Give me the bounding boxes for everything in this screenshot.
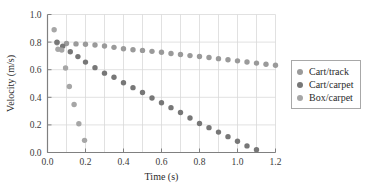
data-point (111, 75, 116, 80)
y-axis-tick-label: 0.8 (30, 38, 42, 48)
data-point (83, 59, 88, 64)
y-axis-tick-label: 0.0 (30, 148, 42, 158)
data-point (73, 41, 78, 46)
data-point (159, 100, 164, 105)
x-axis-tick-label: 0.4 (118, 157, 130, 167)
legend-item-box-carpet: Box/carpet (297, 91, 353, 104)
chart-legend: Cart/track Cart/carpet Box/carpet (291, 60, 361, 109)
data-point (168, 51, 173, 56)
velocity-vs-time-chart: 0.00.20.40.60.81.01.20.00.20.40.60.81.0T… (0, 0, 390, 189)
data-point (197, 121, 202, 126)
data-series-cart-carpet (54, 39, 259, 152)
data-point (244, 143, 249, 148)
data-point (216, 56, 221, 61)
data-point (76, 121, 81, 126)
data-point (168, 105, 173, 110)
data-point (102, 70, 107, 75)
legend-marker-icon (297, 82, 303, 88)
y-axis-tick-label: 0.4 (30, 93, 42, 103)
legend-marker-icon (297, 69, 303, 75)
data-point (68, 49, 73, 54)
data-point (92, 42, 97, 47)
data-point (149, 49, 154, 54)
x-axis-tick-label: 1.2 (270, 157, 282, 167)
y-axis-tick-label: 0.6 (30, 65, 42, 75)
data-point (121, 46, 126, 51)
x-axis-title: Time (s) (145, 171, 179, 183)
x-axis-tick-label: 0.8 (194, 157, 206, 167)
data-point (59, 47, 64, 52)
data-point (235, 58, 240, 63)
data-point (254, 147, 259, 152)
x-axis-tick-label: 0.6 (156, 157, 168, 167)
data-series-cart-track (54, 40, 278, 68)
data-point (111, 45, 116, 50)
data-point (140, 90, 145, 95)
legend-item-cart-carpet: Cart/carpet (297, 78, 353, 91)
data-point (149, 95, 154, 100)
data-point (67, 84, 72, 89)
data-point (187, 53, 192, 58)
data-point (235, 138, 240, 143)
legend-label: Box/carpet (309, 91, 353, 104)
data-point (178, 110, 183, 115)
legend-item-cart-track: Cart/track (297, 65, 353, 78)
data-point (197, 54, 202, 59)
legend-label: Cart/track (309, 65, 349, 78)
data-point (75, 54, 80, 59)
data-point (254, 60, 259, 65)
data-point (71, 102, 76, 107)
data-point (187, 115, 192, 120)
x-axis-tick-label: 0.0 (42, 157, 54, 167)
data-point (102, 43, 107, 48)
data-point (225, 134, 230, 139)
data-point (225, 57, 230, 62)
data-point (63, 65, 68, 70)
data-point (159, 50, 164, 55)
data-point (178, 52, 183, 57)
data-point (54, 39, 59, 44)
y-axis-tick-label: 1.0 (30, 10, 42, 20)
data-point (130, 85, 135, 90)
x-axis-tick-label: 0.2 (80, 157, 92, 167)
data-point (273, 63, 278, 68)
x-axis-tick-label: 1.0 (232, 157, 244, 167)
y-axis-title: Velocity (m/s) (5, 55, 17, 112)
y-axis-tick-label: 0.2 (30, 120, 42, 130)
data-point (83, 42, 88, 47)
data-point (216, 129, 221, 134)
data-point (92, 65, 97, 70)
data-point (244, 59, 249, 64)
legend-marker-icon (297, 95, 303, 101)
data-point (51, 27, 56, 32)
data-point (206, 55, 211, 60)
data-point (263, 61, 268, 66)
legend-label: Cart/carpet (309, 78, 353, 91)
data-point (130, 47, 135, 52)
data-point (206, 125, 211, 130)
data-point (121, 80, 126, 85)
data-point (82, 138, 87, 143)
data-point (140, 48, 145, 53)
